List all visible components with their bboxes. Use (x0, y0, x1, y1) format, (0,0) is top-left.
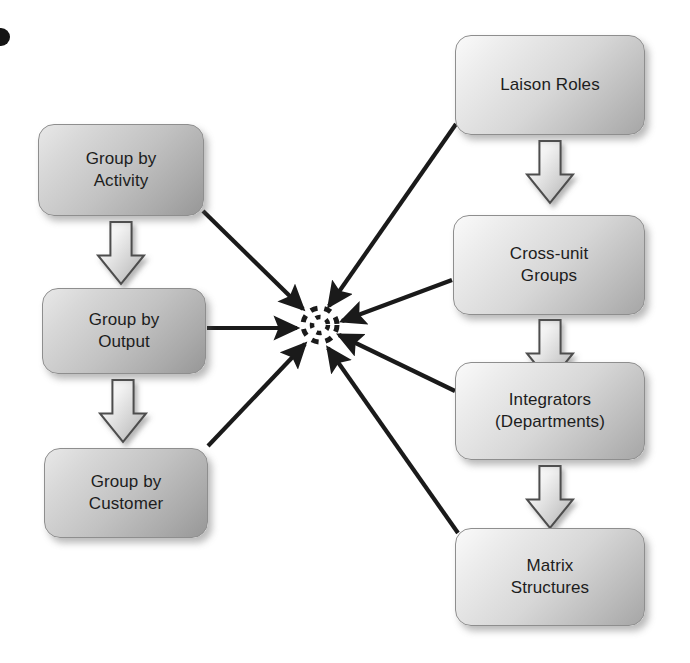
integration-hub (303, 308, 337, 342)
edge-group-by-activity-to-hub (203, 211, 303, 309)
page-corner-dot (0, 28, 10, 46)
node-matrix-structures[interactable]: Matrix Structures (455, 528, 645, 626)
node-label-cross-unit-groups: Cross-unit Groups (502, 243, 596, 288)
node-label-group-by-activity: Group by Activity (78, 148, 165, 193)
edge-integrators-to-hub (339, 335, 455, 391)
edge-group-by-customer-to-hub (208, 344, 305, 446)
converging-edge-group (203, 124, 458, 533)
arrow-laison-to-crossunit (527, 141, 573, 203)
node-group-by-activity[interactable]: Group by Activity (38, 124, 204, 216)
arrow-activity-to-output (98, 222, 144, 284)
arrow-integrators-to-matrix (527, 466, 573, 528)
node-label-laison-roles: Laison Roles (492, 74, 607, 96)
node-label-integrators-departments: Integrators (Departments) (487, 389, 613, 434)
hub-dashed-circle (303, 308, 337, 342)
edge-matrix-structures-to-hub (328, 348, 458, 533)
node-integrators-departments[interactable]: Integrators (Departments) (455, 362, 645, 460)
node-label-group-by-customer: Group by Customer (81, 471, 172, 516)
node-label-matrix-structures: Matrix Structures (503, 555, 597, 600)
edge-laison-roles-to-hub (329, 124, 456, 306)
node-laison-roles[interactable]: Laison Roles (455, 35, 645, 135)
edge-cross-unit-groups-to-hub (342, 280, 452, 321)
node-cross-unit-groups[interactable]: Cross-unit Groups (453, 215, 645, 315)
hub-dashed-circle-inner (312, 317, 328, 333)
node-group-by-output[interactable]: Group by Output (42, 288, 206, 374)
node-label-group-by-output: Group by Output (81, 309, 168, 354)
arrow-output-to-customer (100, 380, 146, 442)
node-group-by-customer[interactable]: Group by Customer (44, 448, 208, 538)
diagram-canvas: Group by ActivityGroup by OutputGroup by… (0, 0, 690, 663)
